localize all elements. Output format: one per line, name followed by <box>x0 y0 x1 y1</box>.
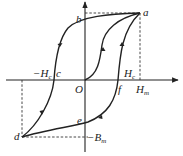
label-c: c <box>56 67 61 79</box>
arrow-c-upper <box>58 43 63 47</box>
label-O: O <box>75 83 83 95</box>
hysteresis-diagram: a b c −Hc O Hc f Hm e d −Bm <box>0 0 183 156</box>
label-hm: Hm <box>135 83 149 97</box>
label-b: b <box>76 13 82 25</box>
label-e: e <box>77 114 82 126</box>
label-f: f <box>118 83 123 95</box>
label-neg-bm: −Bm <box>87 131 106 145</box>
label-a: a <box>143 6 149 18</box>
label-hc: Hc <box>123 67 136 81</box>
label-d: d <box>14 130 20 142</box>
label-neg-hc: −Hc <box>33 67 52 81</box>
